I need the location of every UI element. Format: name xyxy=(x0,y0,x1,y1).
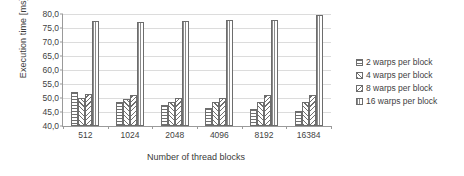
bar xyxy=(295,111,302,126)
bar xyxy=(257,102,264,126)
plot-area: 80,075,070,065,060,055,050,045,040,0 512… xyxy=(62,14,331,127)
bar xyxy=(168,102,175,126)
legend-item: 8 warps per block xyxy=(356,84,437,93)
chart-legend: 2 warps per block4 warps per block8 warp… xyxy=(356,58,437,106)
bar xyxy=(161,105,168,126)
bar-group: 4096 xyxy=(197,14,242,126)
legend-swatch-icon xyxy=(356,59,363,66)
y-axis-label: 75,0 xyxy=(42,23,59,33)
x-axis-tick xyxy=(286,126,287,129)
x-axis-label: 2048 xyxy=(165,130,184,140)
y-axis-label: 40,0 xyxy=(42,121,59,131)
bar xyxy=(309,95,316,126)
legend-item: 16 warps per block xyxy=(356,97,437,106)
bar xyxy=(316,15,323,126)
bar xyxy=(130,95,137,126)
bar xyxy=(123,99,130,126)
bar xyxy=(250,109,257,126)
x-axis-label: 16384 xyxy=(297,130,321,140)
bar-groups: 512102420484096819216384 xyxy=(63,14,331,126)
x-axis-tick xyxy=(63,126,64,129)
y-axis-label: 65,0 xyxy=(42,51,59,61)
x-axis-label: 1024 xyxy=(121,130,140,140)
bar xyxy=(85,94,92,126)
y-axis-label: 80,0 xyxy=(42,9,59,19)
legend-item: 2 warps per block xyxy=(356,58,437,67)
x-axis-tick xyxy=(242,126,243,129)
bar xyxy=(182,21,189,126)
y-axis-label: 55,0 xyxy=(42,79,59,89)
bar xyxy=(137,22,144,126)
bar xyxy=(302,102,309,126)
y-axis-title: Execution time [ms] xyxy=(18,0,28,97)
bar xyxy=(71,92,78,126)
bar-group: 2048 xyxy=(152,14,197,126)
legend-label: 16 warps per block xyxy=(366,97,437,106)
y-axis-label: 45,0 xyxy=(42,107,59,117)
bar xyxy=(212,102,219,126)
x-axis-tick xyxy=(197,126,198,129)
bar xyxy=(78,98,85,126)
x-axis-tick xyxy=(331,126,332,129)
bar xyxy=(219,98,226,126)
bar-group: 1024 xyxy=(108,14,153,126)
y-axis-label: 60,0 xyxy=(42,65,59,75)
bar xyxy=(175,98,182,126)
bar-group: 512 xyxy=(63,14,108,126)
y-axis-label: 50,0 xyxy=(42,93,59,103)
bar-group: 16384 xyxy=(286,14,331,126)
legend-label: 2 warps per block xyxy=(366,58,433,67)
x-axis-tick xyxy=(108,126,109,129)
legend-swatch-icon xyxy=(356,72,363,79)
chart-container: Execution time [ms] 80,075,070,065,060,0… xyxy=(0,0,464,176)
y-axis-label: 70,0 xyxy=(42,37,59,47)
bar xyxy=(116,102,123,126)
bar xyxy=(205,108,212,126)
bar xyxy=(226,20,233,126)
x-axis-label: 4096 xyxy=(210,130,229,140)
x-axis-title: Number of thread blocks xyxy=(62,152,330,162)
legend-swatch-icon xyxy=(356,98,363,105)
bar xyxy=(92,21,99,126)
bar-group: 8192 xyxy=(242,14,287,126)
bar xyxy=(264,95,271,126)
legend-swatch-icon xyxy=(356,85,363,92)
bar xyxy=(271,20,278,126)
legend-label: 4 warps per block xyxy=(366,71,433,80)
x-axis-label: 512 xyxy=(78,130,92,140)
x-axis-tick xyxy=(152,126,153,129)
legend-item: 4 warps per block xyxy=(356,71,437,80)
x-axis-label: 8192 xyxy=(255,130,274,140)
legend-label: 8 warps per block xyxy=(366,84,433,93)
